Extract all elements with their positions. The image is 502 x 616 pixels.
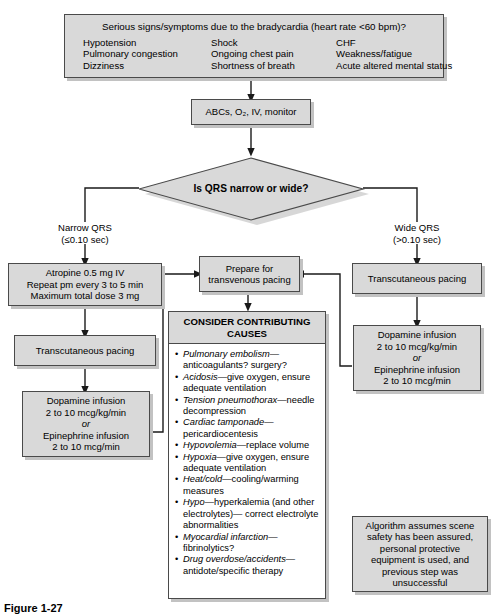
prepare-transvenous-pacing-box: Prepare for transvenous pacing (199, 256, 300, 292)
note-line5: previous step was (382, 566, 458, 578)
cause-item: Cardiac tamponade—pericardiocentesis (175, 417, 321, 440)
cause-term: Pulmonary embolism (183, 349, 270, 359)
wide-qrs-line1: Wide QRS (367, 222, 467, 234)
cause-term: Heat/cold (183, 474, 222, 484)
note-line6: unsuccessful (393, 577, 448, 589)
cause-term: Hypoxia (183, 452, 217, 462)
serious-signs-headline: Serious signs/symptoms due to the bradyc… (75, 21, 433, 33)
cause-term: Cardiac tamponade (183, 417, 264, 427)
causes-list: Pulmonary embolism—anticoagulants? surge… (169, 344, 325, 579)
right-dopa-line1: Dopamine infusion (378, 329, 457, 341)
narrow-qrs-line2: (≤0.10 sec) (35, 234, 135, 246)
right-transcutaneous-pacing-box: Transcutaneous pacing (352, 263, 482, 294)
cause-item: Hypo—hyperkalemia (and other electrolyte… (175, 497, 321, 531)
right-dopamine-epinephrine-box: Dopamine infusion 2 to 10 mcg/kg/min or … (353, 325, 481, 391)
figure-caption: Figure 1-27 (4, 602, 63, 614)
prepare-line2: transvenous pacing (208, 274, 290, 286)
flowchart-canvas: Serious signs/symptoms due to the bradyc… (0, 0, 502, 616)
left-dopa-line5: 2 to 10 mcg/min (52, 441, 120, 453)
right-tcp-label: Transcutaneous pacing (368, 273, 466, 285)
symptom-grid: Hypotension Shock CHF Pulmonary congesti… (75, 37, 433, 72)
qrs-decision-label: Is QRS narrow or wide? (139, 156, 363, 220)
narrow-qrs-line1: Narrow QRS (35, 222, 135, 234)
symptom-item: Weakness/fatigue (336, 48, 452, 60)
narrow-qrs-branch-label: Narrow QRS (≤0.10 sec) (35, 222, 135, 245)
symptom-item: Hypotension (83, 37, 211, 49)
cause-item: Heat/cold—cooling/warming measures (175, 474, 321, 497)
cause-item: Myocardial infarction—fibrinolytics? (175, 532, 321, 555)
left-transcutaneous-pacing-box: Transcutaneous pacing (14, 335, 156, 366)
left-dopamine-epinephrine-box: Dopamine infusion 2 to 10 mcg/kg/min or … (22, 391, 150, 457)
cause-term: Hypovolemia (183, 440, 237, 450)
cause-item: Hypovolemia—replace volume (175, 440, 321, 451)
left-dopa-line1: Dopamine infusion (47, 395, 126, 407)
symptom-item: Dizziness (83, 60, 211, 72)
left-dopa-or: or (82, 418, 90, 430)
serious-signs-box: Serious signs/symptoms due to the bradyc… (64, 14, 444, 78)
cause-term: Tension pneumothorax (183, 395, 277, 405)
right-dopa-or: or (413, 352, 421, 364)
symptom-item: Acute altered mental status (336, 60, 452, 72)
algorithm-assumptions-note-box: Algorithm assumes scene safety has been … (352, 516, 488, 592)
note-line3: personal protective (380, 543, 460, 555)
cause-item: Hypoxia—give oxygen, ensure adequate ven… (175, 452, 321, 475)
cause-item: Tension pneumothorax—needle decompressio… (175, 395, 321, 418)
cause-item: Acidosis—give oxygen, ensure adequate ve… (175, 372, 321, 395)
cause-item: Drug overdose/accidents—antidote/specifi… (175, 554, 321, 577)
cause-item: Pulmonary embolism—anticoagulants? surge… (175, 349, 321, 372)
right-dopa-line4: Epinephrine infusion (374, 364, 460, 376)
wide-qrs-branch-label: Wide QRS (>0.10 sec) (367, 222, 467, 245)
left-dopa-line4: Epinephrine infusion (43, 430, 129, 442)
causes-heading-line2: CAUSES (171, 328, 323, 340)
symptom-item: Ongoing chest pain (211, 48, 336, 60)
left-dopa-line2: 2 to 10 mcg/kg/min (46, 407, 126, 419)
abcs-label: ABCs, O₂, IV, monitor (206, 106, 297, 118)
cause-term: Acidosis (183, 372, 218, 382)
symptom-item: Shock (211, 37, 336, 49)
atropine-line3: Maximum total dose 3 mg (31, 290, 140, 302)
symptom-item: Shortness of breath (211, 60, 336, 72)
symptom-item: CHF (336, 37, 452, 49)
atropine-box: Atropine 0.5 mg IV Repeat pm every 3 to … (8, 263, 162, 306)
right-dopa-line5: 2 to 10 mcg/min (383, 375, 451, 387)
cause-term: Myocardial infarction (183, 532, 268, 542)
note-line1: Algorithm assumes scene (366, 520, 475, 532)
note-line4: equipment is used, and (371, 554, 469, 566)
left-tcp-label: Transcutaneous pacing (36, 345, 134, 357)
right-dopa-line2: 2 to 10 mcg/kg/min (377, 341, 457, 353)
abcs-box: ABCs, O₂, IV, monitor (191, 99, 311, 125)
causes-heading: CONSIDER CONTRIBUTING CAUSES (169, 312, 325, 344)
note-line2: safety has been assured, (367, 531, 473, 543)
consider-contributing-causes-box: CONSIDER CONTRIBUTING CAUSES Pulmonary e… (168, 311, 326, 599)
atropine-line1: Atropine 0.5 mg IV (46, 267, 125, 279)
atropine-line2: Repeat pm every 3 to 5 min (27, 279, 144, 291)
symptom-item: Pulmonary congestion (83, 48, 211, 60)
cause-detail: —replace volume (237, 440, 309, 450)
qrs-decision-diamond: Is QRS narrow or wide? (139, 156, 363, 220)
causes-heading-line1: CONSIDER CONTRIBUTING (171, 316, 323, 328)
cause-term: Hypo (183, 497, 205, 507)
wide-qrs-line2: (>0.10 sec) (367, 234, 467, 246)
prepare-line1: Prepare for (226, 263, 274, 275)
cause-term: Drug overdose/accidents (183, 554, 286, 564)
